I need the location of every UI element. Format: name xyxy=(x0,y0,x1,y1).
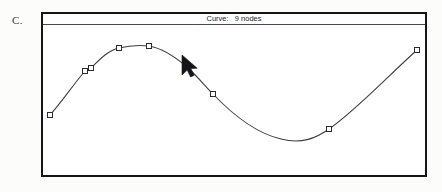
figure-label: C. xyxy=(12,15,23,26)
mouse-pointer-icon xyxy=(182,55,197,77)
mouse-pointer-arrow xyxy=(182,55,197,77)
curve-node-handle[interactable] xyxy=(415,48,420,53)
curve-node-handle[interactable] xyxy=(89,66,94,71)
window-title-text: Curve: 9 nodes xyxy=(206,15,261,23)
curve-canvas[interactable] xyxy=(43,25,425,175)
spline-curve xyxy=(50,45,417,141)
curve-svg-surface xyxy=(43,25,425,175)
window-title-bar: Curve: 9 nodes xyxy=(43,14,425,25)
curve-node-handle[interactable] xyxy=(117,46,122,51)
curve-node-handle[interactable] xyxy=(327,127,332,132)
curve-node-handle[interactable] xyxy=(147,44,152,49)
curve-editor-window: Curve: 9 nodes xyxy=(41,12,427,177)
figure-page: C. Curve: 9 nodes xyxy=(0,0,442,192)
curve-node-handle[interactable] xyxy=(83,69,88,74)
curve-node-handle[interactable] xyxy=(211,92,216,97)
curve-node-handle[interactable] xyxy=(48,113,53,118)
